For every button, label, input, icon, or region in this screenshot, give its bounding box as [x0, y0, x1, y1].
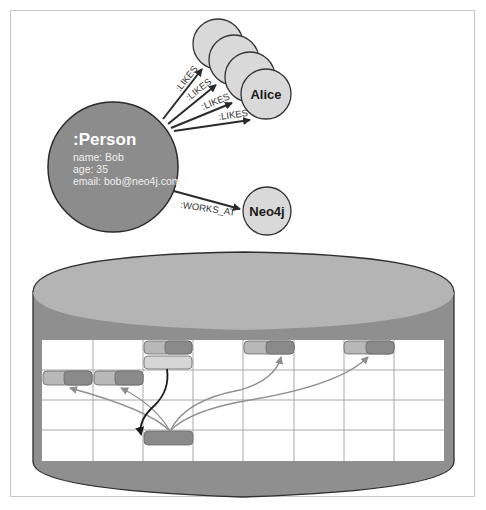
- record-r0-c2-single: [144, 356, 192, 369]
- neo4j-label: Neo4j: [249, 204, 284, 219]
- record-r0-c6-pair: [344, 341, 394, 354]
- database-cylinder: [33, 252, 454, 497]
- record-r3-c2-node: [144, 431, 193, 445]
- works-at-label: :WORKS_AT: [180, 199, 236, 218]
- record-r1-c0-pair: [43, 371, 92, 385]
- person-prop-name: name: Bob: [73, 151, 124, 163]
- record-r0-c4-pair: [244, 341, 294, 354]
- person-prop-age: age: 35: [73, 163, 108, 175]
- person-prop-email: email: bob@neo4j.com: [73, 175, 181, 187]
- record-r0-c2-pair: [144, 341, 192, 354]
- person-label: :Person: [73, 130, 136, 149]
- cylinder-top: [33, 252, 454, 330]
- likes-label-4: :LIKES: [218, 107, 249, 122]
- graph-storage-diagram: Alice Neo4j :Person name: Bob age: 35 em…: [0, 0, 486, 510]
- person-node-bob: [48, 102, 178, 232]
- alice-label: Alice: [250, 87, 281, 102]
- record-r1-c1-pair: [94, 371, 143, 385]
